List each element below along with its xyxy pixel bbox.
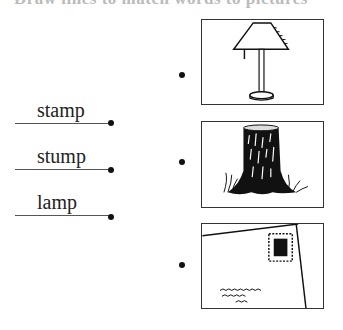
picture-card-lamp	[201, 19, 324, 105]
picture-dot-stamp[interactable]	[179, 262, 185, 268]
word-line-lamp: lamp	[15, 195, 112, 216]
lamp-icon	[202, 20, 323, 104]
picture-card-stump	[201, 121, 324, 208]
cropped-title: Draw lines to match words to pictures	[14, 0, 308, 9]
word-dot-lamp[interactable]	[108, 214, 114, 220]
tree-stump-icon	[202, 122, 323, 207]
picture-card-stamp	[201, 223, 324, 309]
picture-dot-lamp[interactable]	[179, 72, 185, 78]
word-line-stump: stump	[15, 149, 112, 170]
word-label: stamp	[37, 99, 85, 122]
picture-dot-stump[interactable]	[179, 159, 185, 165]
word-label: stump	[37, 145, 86, 168]
envelope-stamp-icon	[202, 224, 323, 308]
word-dot-stamp[interactable]	[108, 120, 114, 126]
word-label: lamp	[37, 191, 77, 214]
word-line-stamp: stamp	[15, 103, 112, 124]
word-dot-stump[interactable]	[108, 167, 114, 173]
